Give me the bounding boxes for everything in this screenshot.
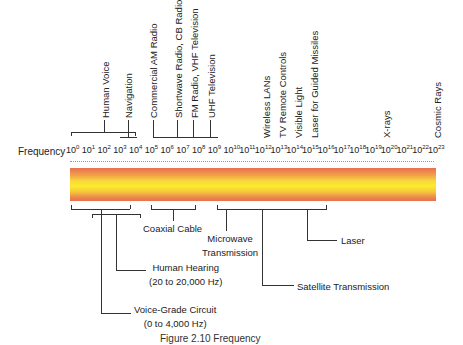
hearing-bracket-l [92,214,93,218]
tick-label: 1020 [381,144,398,155]
tick-label: 100 [66,144,79,155]
microwave-line2: Transmission [202,246,258,260]
satellite-stem [262,209,263,285]
label-tv-remote: TV Remote Controls [278,52,288,138]
voice-bracket-r [130,205,131,209]
voice-grade-leader [101,313,131,314]
shortwave-stem [177,120,178,138]
navigation-stem [128,120,129,137]
label-navigation: Navigation [124,73,134,118]
voice-grade-line1: Voice-Grade Circuit [134,303,216,317]
human-voice-bracket-l [71,132,72,136]
label-satellite-transmission: Satellite Transmission [297,280,389,294]
tick-label: 1017 [334,144,351,155]
coaxial-bracket-l [151,205,152,209]
tick-label: 1012 [255,144,272,155]
tick-label: 102 [97,144,110,155]
frequency-axis-title: Frequency [18,146,65,157]
label-shortwave: Shortwave Radio, CB Radio [174,0,184,118]
tick-label: 1014 [286,144,303,155]
satellite-leader [262,285,294,286]
tick-label: 1015 [302,144,319,155]
human-voice-bracket [71,132,136,133]
voice-bracket-l [71,205,72,209]
tick-label: 104 [129,144,142,155]
tick-label: 1018 [349,144,366,155]
tick-label: 1013 [271,144,288,155]
tick-label: 108 [192,144,205,155]
hearing-line1: Human Hearing [149,261,222,275]
label-x-rays: X-rays [382,111,392,138]
tick-label: 1010 [223,144,240,155]
tick-label: 103 [113,144,126,155]
hearing-bracket-r [140,214,141,218]
tick-label: 101 [82,144,95,155]
label-uhf: UHF Television [207,54,217,118]
tick-label: 1023 [428,144,445,155]
am-fm-bracket [153,137,218,138]
human-voice-stem [104,120,105,132]
label-human-hearing: Human Hearing (20 to 20,000 Hz) [149,261,222,289]
commercial-am-stem [153,120,154,138]
tick-label: 1022 [412,144,429,155]
label-visible-light: Visible Light [294,87,304,138]
voice-grade-stem [101,209,102,313]
tick-label: 105 [145,144,158,155]
tick-label: 106 [160,144,173,155]
label-laser-missiles: Laser for Guided Missiles [310,31,320,138]
label-fm-vhf: FM Radio, VHF Television [190,8,200,118]
label-coaxial-cable: Coaxial Cable [143,222,202,236]
label-cosmic-rays: Cosmic Rays [433,82,443,138]
hearing-leader [116,270,146,271]
microwave-satellite-bracket [217,209,327,210]
spectrum-band [70,168,436,201]
tick-label: 109 [208,144,221,155]
label-commercial-am: Commercial AM Radio [149,24,159,119]
label-voice-grade-circuit: Voice-Grade Circuit (0 to 4,000 Hz) [134,303,216,331]
hearing-stem [116,214,117,271]
frequency-ruler [70,157,434,162]
tick-label: 1019 [365,144,382,155]
laser-leader [307,240,337,241]
tick-label: 1016 [318,144,335,155]
coaxial-bracket-r [195,205,196,209]
coaxial-stem [173,209,174,221]
label-microwave-transmission: Microwave Transmission [202,232,258,260]
voice-grade-line2: (0 to 4,000 Hz) [134,317,216,331]
label-wireless-lans: Wireless LANs [262,76,272,138]
fm-vhf-stem [193,120,194,138]
microwave-line1: Microwave [202,232,258,246]
mw-bracket-r [326,205,327,209]
microwave-stem [226,209,227,231]
laser-stem [307,209,308,240]
tick-label: 1011 [239,144,255,155]
human-voice-bracket-r [135,132,136,136]
label-laser: Laser [341,234,365,248]
mw-bracket-l [217,205,218,209]
figure-caption: Figure 2.10 Frequency [160,333,261,344]
hearing-line2: (20 to 20,000 Hz) [149,275,222,289]
tick-label: 107 [176,144,189,155]
navigation-bracket [120,137,137,138]
tick-label: 1021 [397,144,414,155]
uhf-stem [210,120,211,138]
label-human-voice: Human Voice [101,61,111,118]
